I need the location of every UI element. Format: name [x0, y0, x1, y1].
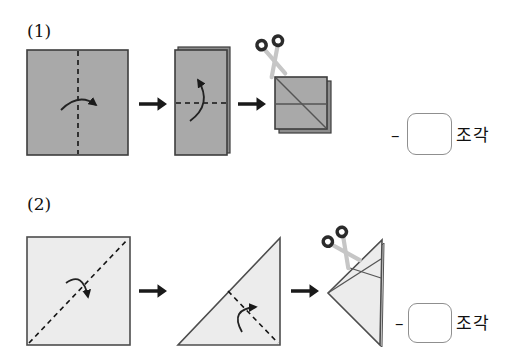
paper-rectangle-dark — [175, 50, 227, 155]
step3-cut-triangle — [321, 225, 384, 347]
worksheet-page: (1) – 조각 (2) – 조각 — [0, 0, 509, 354]
step2-folded-triangle — [178, 238, 280, 345]
right-arrow-icon — [238, 97, 266, 111]
answer-box-1[interactable] — [407, 113, 452, 155]
step3-cut-square — [256, 35, 331, 133]
paper-square-dark — [27, 50, 128, 155]
answer-box-2[interactable] — [408, 303, 452, 343]
right-arrow-icon — [291, 284, 319, 298]
problem-1-number: (1) — [27, 23, 51, 40]
scissors-icon — [256, 35, 291, 79]
problem-2-diagram — [27, 225, 384, 347]
problem-1-diagram — [27, 35, 331, 155]
folding-diagrams — [0, 0, 509, 354]
answer-unit-label: 조각 — [456, 315, 490, 332]
right-arrow-icon — [139, 284, 167, 298]
problem-2-number: (2) — [27, 196, 51, 213]
answer-dash: – — [395, 315, 404, 332]
step2-folded-rectangle — [175, 47, 230, 155]
step1-square-paper — [27, 237, 130, 345]
step1-square-paper — [27, 50, 128, 155]
right-arrow-icon — [139, 97, 167, 111]
answer-unit-label: 조각 — [456, 127, 490, 144]
answer-dash: – — [391, 127, 400, 144]
